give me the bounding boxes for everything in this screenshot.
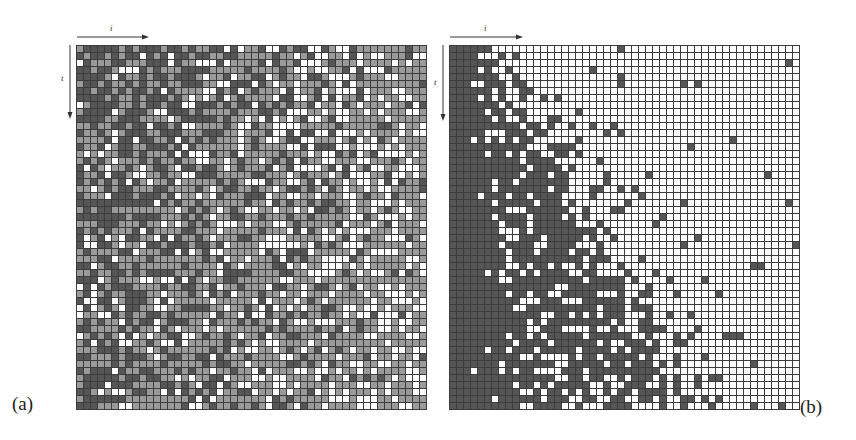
- grid-cell: [231, 123, 237, 129]
- grid-cell: [695, 130, 701, 136]
- grid-cell: [147, 193, 153, 199]
- grid-cell: [688, 340, 694, 346]
- grid-cell: [238, 130, 244, 136]
- grid-cell: [667, 361, 673, 367]
- grid-cell: [464, 207, 470, 213]
- grid-cell: [765, 312, 771, 318]
- grid-cell: [702, 60, 708, 66]
- grid-cell: [105, 298, 111, 304]
- grid-cell: [196, 116, 202, 122]
- grid-cell: [660, 319, 666, 325]
- grid-cell: [84, 256, 90, 262]
- grid-cell: [329, 193, 335, 199]
- grid-cell: [147, 88, 153, 94]
- grid-cell: [301, 186, 307, 192]
- grid-cell: [555, 53, 561, 59]
- grid-cell: [301, 368, 307, 374]
- grid-cell: [702, 165, 708, 171]
- grid-cell: [471, 95, 477, 101]
- grid-cell: [772, 368, 778, 374]
- grid-cell: [189, 179, 195, 185]
- grid-cell: [217, 214, 223, 220]
- grid-cell: [793, 375, 799, 381]
- grid-cell: [583, 291, 589, 297]
- grid-cell: [301, 403, 307, 409]
- grid-cell: [399, 165, 405, 171]
- grid-cell: [91, 305, 97, 311]
- grid-cell: [674, 396, 680, 402]
- grid-cell: [301, 116, 307, 122]
- grid-cell: [119, 207, 125, 213]
- grid-cell: [140, 347, 146, 353]
- grid-cell: [189, 256, 195, 262]
- grid-cell: [604, 326, 610, 332]
- grid-cell: [217, 123, 223, 129]
- grid-cell: [154, 249, 160, 255]
- grid-cell: [91, 214, 97, 220]
- grid-cell: [161, 333, 167, 339]
- grid-cell: [555, 396, 561, 402]
- grid-cell: [217, 319, 223, 325]
- grid-cell: [576, 151, 582, 157]
- grid-cell: [779, 298, 785, 304]
- grid-cell: [385, 88, 391, 94]
- grid-cell: [709, 193, 715, 199]
- grid-cell: [639, 249, 645, 255]
- grid-cell: [765, 95, 771, 101]
- grid-cell: [196, 74, 202, 80]
- grid-cell: [112, 109, 118, 115]
- grid-cell: [231, 81, 237, 87]
- grid-cell: [499, 403, 505, 409]
- grid-cell: [126, 60, 132, 66]
- grid-cell: [385, 179, 391, 185]
- grid-cell: [709, 207, 715, 213]
- grid-cell: [175, 60, 181, 66]
- grid-cell: [147, 214, 153, 220]
- grid-cell: [737, 228, 743, 234]
- grid-cell: [175, 368, 181, 374]
- grid-cell: [737, 179, 743, 185]
- grid-cell: [112, 207, 118, 213]
- grid-cell: [527, 193, 533, 199]
- grid-cell: [161, 382, 167, 388]
- grid-cell: [730, 347, 736, 353]
- grid-cell: [203, 74, 209, 80]
- grid-cell: [772, 221, 778, 227]
- grid-cell: [527, 46, 533, 52]
- grid-cell: [737, 137, 743, 143]
- grid-cell: [168, 340, 174, 346]
- grid-cell: [147, 249, 153, 255]
- grid-cell: [252, 60, 258, 66]
- grid-cell: [91, 403, 97, 409]
- grid-cell: [245, 256, 251, 262]
- grid-cell: [280, 340, 286, 346]
- grid-cell: [406, 354, 412, 360]
- grid-cell: [182, 396, 188, 402]
- grid-cell: [499, 382, 505, 388]
- grid-cell: [506, 249, 512, 255]
- grid-cell: [161, 256, 167, 262]
- grid-cell: [91, 165, 97, 171]
- grid-cell: [266, 298, 272, 304]
- grid-cell: [259, 305, 265, 311]
- grid-cell: [779, 186, 785, 192]
- grid-cell: [632, 74, 638, 80]
- grid-cell: [583, 347, 589, 353]
- grid-cell: [315, 403, 321, 409]
- grid-cell: [758, 347, 764, 353]
- grid-cell: [534, 242, 540, 248]
- grid-cell: [709, 46, 715, 52]
- grid-cell: [399, 179, 405, 185]
- grid-cell: [744, 284, 750, 290]
- grid-cell: [541, 305, 547, 311]
- grid-cell: [91, 319, 97, 325]
- grid-cell: [548, 368, 554, 374]
- grid-cell: [259, 270, 265, 276]
- grid-cell: [189, 312, 195, 318]
- grid-cell: [217, 81, 223, 87]
- grid-cell: [287, 375, 293, 381]
- grid-cell: [478, 144, 484, 150]
- grid-cell: [674, 186, 680, 192]
- grid-cell: [336, 53, 342, 59]
- grid-cell: [266, 340, 272, 346]
